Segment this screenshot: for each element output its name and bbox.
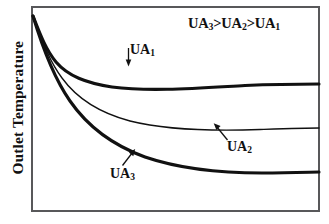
- figure-outlet-temperature-vs-ua: Outlet Temperature UA3>UA2>UA1 UA1: [0, 0, 329, 224]
- curve-label-ua3-sub: 3: [130, 172, 135, 182]
- curve-label-ua2-base: UA: [227, 139, 247, 154]
- curve-label-ua3-base: UA: [110, 166, 130, 181]
- ordering-term-3-base: UA: [188, 15, 209, 31]
- ordering-term-3-sub: 3: [209, 21, 214, 32]
- curve-label-ua1: UA1: [130, 43, 155, 57]
- curve-label-ua1-base: UA: [130, 42, 150, 57]
- ordering-term-1-base: UA: [255, 15, 276, 31]
- curve-label-ua1-sub: 1: [150, 48, 155, 58]
- curve-label-ua3: UA3: [110, 167, 135, 181]
- ordering-term-2-sub: 2: [242, 21, 247, 32]
- plot-area-frame: [31, 6, 320, 212]
- ordering-term-2-base: UA: [221, 15, 242, 31]
- y-axis-label: Outlet Temperature: [10, 13, 26, 203]
- ordering-gt-2: >: [247, 15, 255, 31]
- ua-ordering-note: UA3>UA2>UA1: [188, 16, 280, 31]
- curve-label-ua2: UA2: [227, 140, 252, 154]
- curve-label-ua2-sub: 2: [247, 145, 252, 155]
- ordering-term-1-sub: 1: [275, 21, 280, 32]
